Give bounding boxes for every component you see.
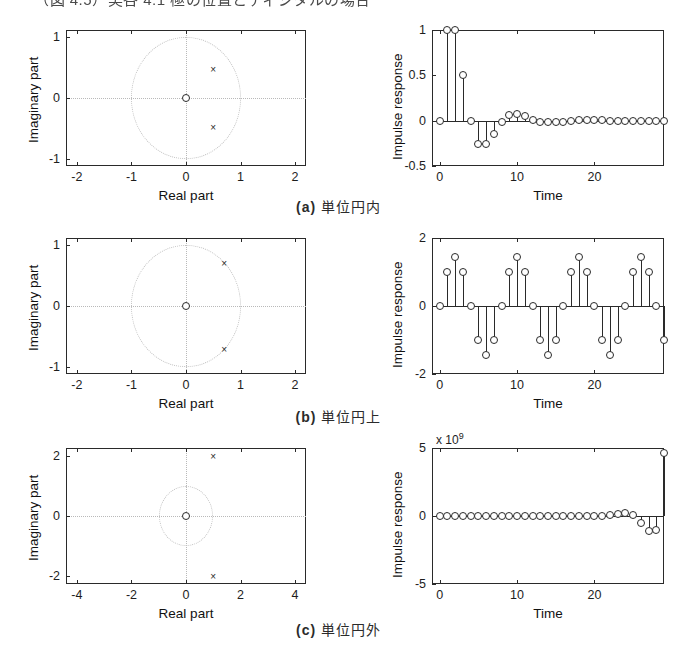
x-tick-top — [295, 448, 296, 452]
stem-marker — [637, 519, 645, 527]
x-tick-top — [77, 30, 78, 34]
x-tick-label: 10 — [510, 170, 524, 184]
figure-row-a: -2-1012-101Real partImaginary part01020-… — [0, 22, 677, 212]
x-tick-top — [517, 448, 518, 452]
pole-marker — [209, 123, 218, 132]
pole-marker — [209, 572, 218, 581]
stem-marker — [660, 336, 668, 344]
x-tick-top — [594, 30, 595, 34]
stem-marker — [652, 526, 660, 534]
stem-marker — [490, 130, 498, 138]
x-tick — [440, 162, 441, 166]
x-tick — [517, 370, 518, 374]
pole-marker — [220, 345, 229, 354]
x-tick-top — [77, 448, 78, 452]
x-tick — [131, 370, 132, 374]
x-tick-label: 2 — [292, 378, 299, 392]
stem-line — [556, 306, 557, 340]
stem-marker — [521, 268, 529, 276]
stem-line — [455, 257, 456, 306]
x-tick-label: 4 — [292, 588, 299, 602]
x-tick — [131, 162, 132, 166]
stem-marker — [637, 253, 645, 261]
stem-marker — [482, 351, 490, 359]
stem-marker — [552, 336, 560, 344]
x-tick-top — [295, 30, 296, 34]
y-tick-label: 0 — [53, 91, 60, 105]
x-tick-label: 20 — [587, 378, 601, 392]
stem-line — [517, 257, 518, 306]
stem-line — [649, 272, 650, 306]
x-tick — [594, 162, 595, 166]
x-tick — [77, 370, 78, 374]
caption-a: (a) 単位円内 — [0, 196, 677, 216]
x-tick — [186, 370, 187, 374]
x-tick-top — [594, 448, 595, 452]
stem-line — [548, 306, 549, 355]
x-tick-label: -2 — [71, 170, 82, 184]
x-tick — [517, 580, 518, 584]
y-axis-title: Impulse response — [390, 53, 405, 160]
x-tick-top — [77, 238, 78, 242]
impulse-plot-a: 01020-0.500.51TimeImpulse response — [432, 30, 664, 166]
stem-marker — [598, 336, 606, 344]
stem-line — [447, 30, 448, 121]
stem-marker — [629, 268, 637, 276]
stem-line — [571, 272, 572, 306]
x-tick — [295, 580, 296, 584]
stem-line — [478, 306, 479, 340]
impulse-plot-c: 01020-505x 109TimeImpulse response — [432, 448, 664, 584]
x-tick — [594, 580, 595, 584]
stem-line — [525, 272, 526, 306]
x-tick-label: -1 — [126, 378, 137, 392]
y-tick-label: 2 — [53, 449, 60, 463]
x-tick-label: 0 — [183, 378, 190, 392]
stem-marker — [536, 336, 544, 344]
y-tick-label: -0.5 — [404, 159, 426, 173]
y-tick-label: 0 — [419, 299, 426, 313]
stem-marker — [621, 302, 629, 310]
pole-zero-plot-a: -2-1012-101Real partImaginary part — [66, 30, 306, 166]
y-axis-title: Imaginary part — [26, 475, 41, 561]
stem-marker — [614, 336, 622, 344]
y-tick-label: 1 — [419, 23, 426, 37]
pole-marker — [220, 258, 229, 267]
y-tick-label: 5 — [419, 441, 426, 455]
stem-line — [455, 30, 456, 121]
y-tick-label: 0 — [419, 114, 426, 128]
x-tick-top — [131, 238, 132, 242]
axis-multiplier: x 109 — [436, 431, 464, 447]
y-tick — [432, 238, 436, 239]
caption-c-text: 単位円外 — [321, 622, 381, 638]
x-tick-label: -4 — [71, 588, 82, 602]
x-tick-label: 20 — [587, 588, 601, 602]
stem-marker — [490, 336, 498, 344]
stem-marker — [575, 253, 583, 261]
stem-marker — [660, 449, 668, 457]
x-tick-top — [186, 30, 187, 34]
caption-b: (b) 単位円上 — [0, 406, 677, 426]
impulse-plot-b: 01020-202TimeImpulse response — [432, 238, 664, 374]
stem-line — [618, 306, 619, 340]
stem-marker — [459, 71, 467, 79]
stem-marker — [606, 351, 614, 359]
y-axis-title: Imaginary part — [26, 265, 41, 351]
stem-line — [447, 272, 448, 306]
y-tick-label: -2 — [49, 569, 60, 583]
caption-c: (c) 単位円外 — [0, 619, 677, 639]
x-tick — [241, 370, 242, 374]
page-top-caption: （図 4.5）実各 4.1 極の位置とディジタルの場合 — [34, 0, 371, 9]
figure-row-b: -2-1012-101Real partImaginary part01020-… — [0, 230, 677, 420]
stem-marker — [590, 302, 598, 310]
caption-b-text: 単位円上 — [321, 409, 381, 425]
stem-line — [664, 306, 665, 340]
stem-line — [494, 306, 495, 340]
y-tick-label: 1 — [53, 30, 60, 44]
x-tick — [440, 580, 441, 584]
x-tick-label: -2 — [126, 588, 137, 602]
stem-marker — [498, 302, 506, 310]
zero-marker — [182, 302, 190, 310]
stem-marker — [559, 118, 567, 126]
stem-line — [610, 306, 611, 355]
y-tick — [66, 456, 70, 457]
